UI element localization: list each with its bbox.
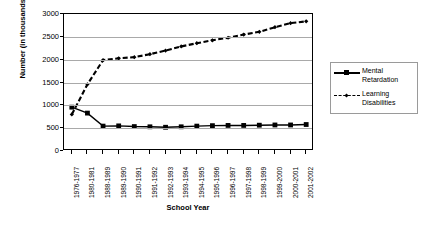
data-point — [195, 41, 199, 45]
x-axis-tick-mark — [305, 150, 306, 154]
data-point — [85, 111, 90, 116]
data-point — [163, 48, 167, 52]
x-axis-tick-mark — [118, 150, 119, 154]
data-point — [288, 21, 292, 25]
data-point — [257, 30, 261, 34]
legend-label-line1: Learning — [362, 90, 389, 97]
x-axis-tick-mark — [102, 150, 103, 154]
data-point — [226, 123, 231, 128]
x-axis-tick-label: 1998-1999 — [261, 167, 268, 198]
plot-area — [63, 13, 313, 150]
legend-label-line1: Mental — [362, 67, 383, 74]
x-axis-tick-mark — [165, 150, 166, 154]
x-axis-tick-label: 1996-1997 — [230, 167, 237, 198]
x-axis-tick-label: 1995-1996 — [214, 167, 221, 198]
x-axis-tick-mark — [258, 150, 259, 154]
data-point — [241, 123, 246, 128]
data-point — [304, 122, 309, 127]
y-axis-tick-label: 2000 — [27, 55, 59, 64]
legend-label-line2: Retardation — [362, 76, 398, 83]
x-axis-tick-label: 1993-1994 — [183, 167, 190, 198]
legend-label-learning-disabilities: Learning Disabilities — [360, 90, 395, 107]
data-point — [273, 123, 278, 128]
x-axis-tick-label: 2000-2001 — [293, 167, 300, 198]
chart-legend: Mental Retardation Learning Disabilities — [330, 62, 418, 114]
series-line-learning-disabilities — [72, 21, 306, 114]
x-axis-tick-label: 1990-1991 — [136, 167, 143, 198]
x-axis-tick-labels: 1976-19771980-19811988-19891989-19901990… — [0, 150, 425, 202]
x-axis-tick-label: 1976-1977 — [74, 167, 81, 198]
legend-item-mental-retardation: Mental Retardation — [334, 67, 398, 84]
x-axis-tick-label: 2001-2002 — [308, 167, 315, 198]
chart-container: Number (in thousands) 050010001500200025… — [0, 0, 425, 227]
x-axis-tick-mark — [290, 150, 291, 154]
data-point — [288, 123, 293, 128]
x-axis-tick-mark — [243, 150, 244, 154]
legend-marker-square-icon — [334, 68, 360, 78]
x-axis-tick-mark — [133, 150, 134, 154]
data-point — [210, 38, 214, 42]
x-axis-tick-mark — [211, 150, 212, 154]
x-axis-tick-mark — [196, 150, 197, 154]
x-axis-title: School Year — [63, 203, 313, 212]
x-axis-tick-label: 1999-2000 — [277, 167, 284, 198]
y-axis-tick-label: 1500 — [27, 78, 59, 87]
legend-label-line2: Disabilities — [362, 99, 395, 106]
x-axis-tick-mark — [227, 150, 228, 154]
data-point — [304, 19, 308, 23]
x-axis-tick-label: 1980-1981 — [89, 167, 96, 198]
y-axis-tick-label: 3000 — [27, 9, 59, 18]
data-point — [132, 55, 136, 59]
x-axis-tick-mark — [180, 150, 181, 154]
x-axis-tick-label: 1992-1993 — [168, 167, 175, 198]
x-axis-tick-mark — [86, 150, 87, 154]
x-axis-tick-mark — [71, 150, 72, 154]
x-axis-tick-mark — [274, 150, 275, 154]
series-line-mental-retardation — [72, 107, 306, 127]
legend-item-learning-disabilities: Learning Disabilities — [334, 90, 395, 107]
x-axis-tick-label: 1989-1990 — [121, 167, 128, 198]
x-axis-tick-label: 1994-1995 — [199, 167, 206, 198]
data-point — [179, 44, 183, 48]
gridline — [64, 60, 312, 61]
legend-label-mental-retardation: Mental Retardation — [360, 67, 398, 84]
y-axis-tick-label: 2500 — [27, 32, 59, 41]
gridline — [64, 128, 312, 129]
x-axis-tick-label: 1997-1998 — [246, 167, 253, 198]
data-point — [257, 123, 262, 128]
x-axis-tick-mark — [149, 150, 150, 154]
x-axis-tick-label: 1988-1989 — [105, 167, 112, 198]
legend-marker-diamond-icon — [334, 91, 360, 101]
gridline — [64, 105, 312, 106]
gridline — [64, 83, 312, 84]
x-axis-tick-label: 1991-1992 — [152, 167, 159, 198]
y-axis-tick-label: 1000 — [27, 100, 59, 109]
gridline — [64, 37, 312, 38]
y-axis-tick-label: 500 — [27, 123, 59, 132]
data-point — [148, 52, 152, 56]
